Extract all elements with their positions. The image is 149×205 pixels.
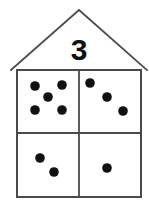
dot-icon	[57, 80, 67, 90]
dot-icon	[85, 78, 95, 88]
dot-icon	[118, 106, 128, 116]
dot-icon	[35, 153, 45, 163]
dot-icon	[49, 167, 59, 177]
dot-icon	[57, 105, 67, 115]
dot-icon	[30, 81, 40, 91]
quadrant-bottom-right	[102, 163, 112, 173]
house-diagram-svg: 3	[0, 0, 149, 205]
dot-icon	[102, 92, 112, 102]
number-house-figure: 3	[0, 0, 149, 205]
dot-icon	[30, 105, 40, 115]
roof-group: 3	[11, 10, 147, 70]
roof-number-label: 3	[71, 33, 88, 66]
dot-icon	[102, 163, 112, 173]
dot-icon	[43, 92, 53, 102]
